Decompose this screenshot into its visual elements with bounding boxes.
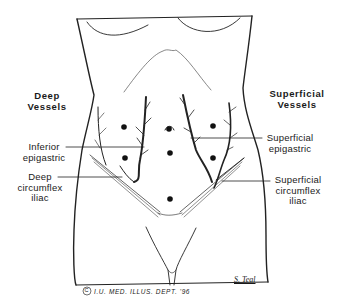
breast-left — [87, 22, 148, 35]
label-line: Inferior — [20, 142, 68, 153]
deep-vessels-heading: Deep Vessels — [22, 90, 72, 112]
port-dot — [121, 124, 127, 130]
heading-line: Superficial — [262, 88, 332, 99]
label-superficial-circumflex-iliac: Superficial circumflex iliac — [270, 175, 326, 207]
label-line: epigastric — [20, 153, 68, 164]
label-line: Superficial — [262, 133, 318, 144]
port-dot — [210, 123, 216, 129]
credit-line: I.U. MED. ILLUS. DEPT. '96 — [94, 288, 190, 295]
rib-margin — [124, 50, 211, 92]
label-line: Superficial — [270, 175, 326, 186]
port-dot — [122, 155, 128, 161]
port-dot — [166, 126, 172, 132]
inguinal-right-3 — [184, 166, 240, 217]
artist-signature: S. Teal — [234, 275, 256, 284]
torso-left-outline — [74, 19, 94, 285]
torso-top-edge — [77, 16, 252, 19]
label-line: iliac — [14, 193, 66, 204]
label-deep-circumflex-iliac: Deep circumflex iliac — [14, 172, 66, 204]
port-dot — [167, 196, 173, 202]
label-superficial-epigastric: Superficial epigastric — [262, 133, 318, 154]
port-dot — [167, 150, 173, 156]
port-site-markers — [121, 123, 216, 202]
label-line: iliac — [270, 196, 326, 207]
groin-left — [146, 227, 170, 285]
groin-right — [174, 228, 196, 285]
breast-right — [178, 18, 240, 32]
inguinal-right-2 — [182, 162, 242, 215]
inguinal-left-2 — [92, 158, 160, 215]
heading-line: Deep — [22, 90, 72, 101]
copyright-letter: C — [85, 287, 89, 293]
heading-line: Vessels — [22, 101, 72, 112]
label-line: Deep — [14, 172, 66, 183]
vessel-superficial-epigastric — [183, 95, 212, 182]
label-inferior-epigastric: Inferior epigastric — [20, 142, 68, 163]
port-dot — [210, 155, 216, 161]
vessel-deep-circumflex — [120, 166, 134, 182]
vessel-inferior-epigastric — [134, 97, 146, 182]
heading-line: Vessels — [262, 99, 332, 110]
pubic-curve — [158, 213, 182, 215]
inguinal-left-3 — [94, 162, 158, 217]
superficial-vessels-heading: Superficial Vessels — [262, 88, 332, 110]
label-line: epigastric — [262, 144, 318, 155]
groin-notch — [168, 270, 176, 273]
inguinal-left — [90, 155, 160, 212]
